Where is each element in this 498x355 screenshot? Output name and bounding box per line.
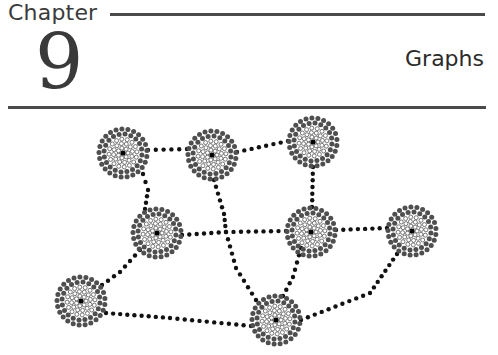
- graph-vertex-n2: [186, 129, 239, 182]
- graph-edge: [334, 226, 389, 232]
- graph-edge: [141, 172, 150, 211]
- graph-edge: [310, 165, 315, 209]
- graph-vertex-n1: [97, 127, 150, 180]
- graph-vertex-n8: [250, 294, 303, 347]
- graph-vertex-n5: [285, 206, 338, 259]
- graph-vertex-n3: [287, 116, 340, 169]
- graph-vertex-n4: [131, 207, 184, 260]
- graph-edge: [212, 178, 258, 302]
- graph-vertex-n7: [55, 275, 108, 328]
- graph-edge: [100, 248, 142, 287]
- graph-illustration: [0, 0, 498, 355]
- graph-edge: [299, 252, 399, 322]
- graph-vertex-n6: [386, 205, 439, 258]
- graph-edge: [104, 311, 253, 328]
- graph-edge: [146, 147, 189, 152]
- graph-edge: [235, 139, 290, 154]
- graph-edge: [281, 246, 303, 298]
- graph-edge: [180, 229, 288, 237]
